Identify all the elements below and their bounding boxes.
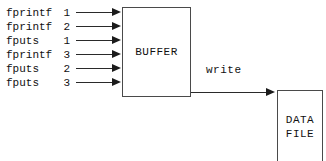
call-index: 2 bbox=[56, 62, 70, 76]
buffer-label: BUFFER bbox=[135, 46, 178, 58]
call-row: fprintf 2 bbox=[6, 20, 122, 34]
right-arrow-icon bbox=[76, 63, 122, 75]
buffer-box: BUFFER bbox=[122, 7, 191, 97]
data-file-label-line1: DATA bbox=[286, 113, 314, 127]
call-row: fprintf 3 bbox=[6, 48, 122, 62]
right-arrow-icon bbox=[76, 49, 122, 61]
right-arrow-icon bbox=[76, 35, 122, 47]
right-arrow-icon bbox=[76, 77, 122, 89]
call-row: fputs 3 bbox=[6, 76, 122, 90]
call-function-name: fprintf bbox=[6, 6, 56, 20]
write-label: write bbox=[206, 64, 242, 76]
call-function-name: fprintf bbox=[6, 20, 56, 34]
call-function-name: fprintf bbox=[6, 48, 56, 62]
write-right-arrow-icon bbox=[191, 86, 277, 98]
call-index: 1 bbox=[56, 34, 70, 48]
call-index: 1 bbox=[56, 6, 70, 20]
buffer-flow-diagram: fprintf 1 fprintf 2 fputs 1 fprintf 3 fp… bbox=[0, 0, 326, 161]
call-function-name: fputs bbox=[6, 34, 56, 48]
call-index: 3 bbox=[56, 76, 70, 90]
call-index: 3 bbox=[56, 48, 70, 62]
right-arrow-icon bbox=[76, 7, 122, 19]
data-file-label-line2: FILE bbox=[286, 127, 314, 141]
right-arrow-icon bbox=[76, 21, 122, 33]
call-row: fputs 1 bbox=[6, 34, 122, 48]
call-row: fputs 2 bbox=[6, 62, 122, 76]
call-function-name: fputs bbox=[6, 62, 56, 76]
data-file-box: DATA FILE bbox=[277, 90, 323, 161]
call-row: fprintf 1 bbox=[6, 6, 122, 20]
call-function-name: fputs bbox=[6, 76, 56, 90]
call-index: 2 bbox=[56, 20, 70, 34]
